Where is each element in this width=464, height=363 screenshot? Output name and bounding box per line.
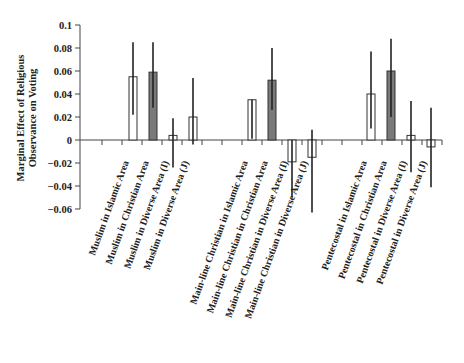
y-tick-label: 0 bbox=[67, 135, 72, 146]
bar-chart: Marginal Effect of ReligiousObservance o… bbox=[0, 0, 464, 363]
y-tick-label: −0.02 bbox=[48, 158, 72, 169]
y-axis-title-line: Observance on Voting bbox=[27, 68, 38, 167]
y-tick-label: 0.06 bbox=[54, 66, 72, 77]
y-tick-label: 0.1 bbox=[59, 20, 72, 31]
y-tick-label: −0.06 bbox=[48, 204, 72, 215]
y-axis-title-line: Marginal Effect of Religious bbox=[15, 55, 26, 182]
y-tick-label: 0.08 bbox=[54, 43, 72, 54]
y-axis-title: Marginal Effect of ReligiousObservance o… bbox=[15, 55, 38, 182]
y-tick-label: −0.04 bbox=[48, 181, 73, 192]
y-tick-label: 0.02 bbox=[54, 112, 72, 123]
category-labels: Muslim in Islamic AreaMuslim in Christia… bbox=[86, 159, 430, 320]
y-tick-label: 0.04 bbox=[54, 89, 73, 100]
x-axis bbox=[80, 140, 442, 145]
y-axis: 0.10.080.060.040.020−0.02−0.04−0.06 bbox=[48, 20, 80, 215]
bars bbox=[129, 71, 435, 162]
